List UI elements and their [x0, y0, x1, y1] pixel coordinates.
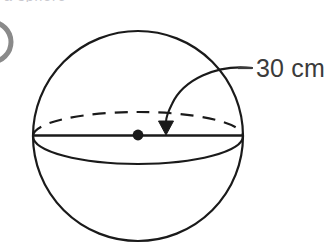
leader-curve: [166, 67, 252, 122]
figure-root: a sphere 30 cm: [0, 0, 330, 250]
cropped-heading-text: a sphere: [4, 0, 66, 2]
arrowhead: [159, 121, 174, 135]
sphere-diagram: 30 cm: [0, 0, 330, 250]
page-marker-bullet-icon: [0, 22, 11, 62]
centre-dot: [133, 130, 144, 141]
dimension-label: 30 cm: [256, 54, 325, 82]
